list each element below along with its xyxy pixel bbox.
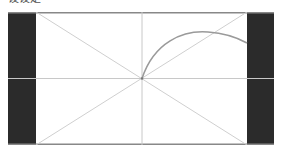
preview-frame bbox=[8, 12, 274, 145]
composition-guides bbox=[8, 12, 274, 145]
center-point bbox=[141, 77, 143, 79]
caption-text: 设设定 bbox=[8, 0, 41, 5]
guide-arc bbox=[142, 32, 247, 79]
